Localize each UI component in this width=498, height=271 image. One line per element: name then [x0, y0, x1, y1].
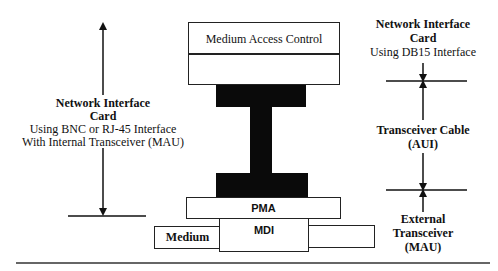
right-bottom-line1: External	[363, 213, 483, 226]
lower-flange	[216, 173, 308, 197]
right-top-desc: Using DB15 Interface	[363, 46, 483, 59]
upper-flange	[216, 85, 306, 107]
mac-label: Medium Access Control	[189, 33, 339, 46]
right-middle-line2: (AUI)	[363, 138, 483, 151]
connector-stem	[250, 107, 272, 174]
pma-box: PMA	[186, 197, 341, 219]
mdi-box: MDI	[219, 218, 309, 252]
right-top-title-line2: Card	[363, 32, 483, 45]
mdi-label: MDI	[220, 224, 308, 237]
right-bottom-line2: Transceiver	[363, 227, 483, 240]
pma-label: PMA	[187, 202, 340, 215]
right-middle-line1: Transceiver Cable	[363, 124, 483, 137]
mac-divider	[189, 53, 339, 55]
right-bottom-line3: (MAU)	[363, 241, 483, 254]
medium-label: Medium	[155, 231, 220, 244]
left-desc-line2: With Internal Transceiver (MAU)	[3, 136, 203, 149]
mac-box: Medium Access Control	[188, 22, 340, 85]
medium-box: Medium	[154, 226, 221, 249]
right-top-title-line1: Network Interface	[363, 18, 483, 31]
